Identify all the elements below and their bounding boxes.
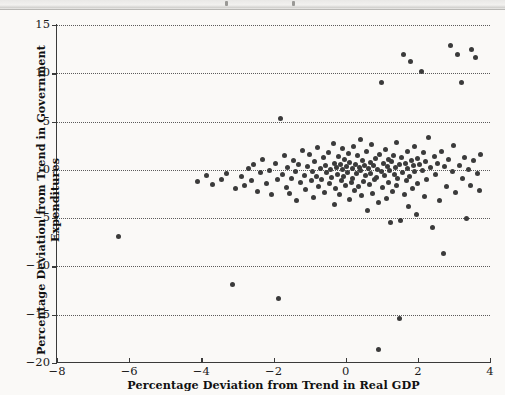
data-point	[275, 177, 280, 182]
data-point	[455, 52, 460, 57]
plot-area	[57, 25, 490, 363]
data-point	[358, 137, 363, 142]
y-tick-mark-0	[52, 170, 56, 171]
data-point	[412, 144, 417, 149]
gridline-y--5	[57, 218, 490, 219]
x-tick-label-3: −2	[259, 366, 289, 377]
data-point	[291, 158, 296, 163]
x-tick-mark-3	[274, 358, 275, 363]
data-point	[389, 159, 394, 164]
data-point	[437, 198, 442, 203]
gridline-y-0	[57, 170, 490, 171]
data-point	[376, 347, 381, 352]
strip-tick-right	[292, 1, 295, 6]
data-point	[414, 212, 419, 217]
data-point	[316, 184, 321, 189]
data-point	[402, 192, 407, 197]
data-point	[367, 182, 372, 187]
data-point	[432, 154, 437, 159]
data-point	[298, 180, 303, 185]
data-point	[397, 316, 402, 321]
data-point	[441, 251, 446, 256]
data-point	[409, 158, 414, 163]
data-point	[382, 173, 387, 178]
x-tick-label-5: 2	[403, 366, 433, 377]
x-tick-mark-5	[418, 358, 419, 363]
data-point	[448, 43, 453, 48]
data-point	[336, 154, 341, 159]
x-tick-mark-1	[129, 358, 130, 363]
data-point	[351, 144, 356, 149]
scatter-plot-figure: Percentage Deviation from Trend in Real …	[0, 0, 505, 395]
data-point	[369, 142, 374, 147]
data-point	[471, 158, 476, 163]
data-point	[341, 174, 346, 179]
y-tick-mark--15	[52, 315, 56, 316]
data-point	[278, 116, 283, 121]
data-point	[350, 176, 355, 181]
data-point	[264, 181, 269, 186]
data-point	[302, 173, 307, 178]
data-point	[408, 59, 413, 64]
data-point	[411, 163, 416, 168]
x-tick-label-4: 0	[331, 366, 361, 377]
data-point	[400, 170, 405, 175]
gridline-y--10	[57, 266, 490, 267]
data-point	[310, 169, 315, 174]
data-point	[451, 143, 456, 148]
data-point	[333, 186, 338, 191]
data-point	[358, 168, 363, 173]
y-tick-mark--10	[52, 266, 56, 267]
data-point	[415, 181, 420, 186]
data-point	[210, 182, 215, 187]
data-point	[420, 168, 425, 173]
data-point	[347, 160, 352, 165]
x-tick-label-2: −4	[186, 366, 216, 377]
y-tick-label--15: −15	[16, 309, 50, 320]
data-point	[384, 196, 389, 201]
data-point	[343, 183, 348, 188]
data-point	[344, 164, 349, 169]
data-point	[239, 174, 244, 179]
x-tick-label-6: 4	[475, 366, 505, 377]
data-point	[376, 200, 381, 205]
data-point	[300, 148, 305, 153]
y-tick-mark-15	[52, 25, 56, 26]
x-tick-mark-6	[490, 358, 491, 363]
data-point	[391, 153, 396, 158]
data-point	[373, 156, 378, 161]
data-point	[230, 282, 235, 287]
data-point	[379, 80, 384, 85]
data-point	[412, 169, 417, 174]
gridline-y-15	[57, 25, 490, 26]
data-point	[457, 163, 462, 168]
data-point	[419, 69, 424, 74]
data-point	[284, 185, 289, 190]
data-point	[428, 165, 433, 170]
data-point	[363, 173, 368, 178]
y-tick-label-10: 10	[16, 67, 50, 78]
data-point	[394, 183, 399, 188]
data-point	[303, 187, 308, 192]
data-point	[337, 192, 342, 197]
data-point	[294, 198, 299, 203]
data-point	[309, 178, 314, 183]
data-point	[355, 153, 360, 158]
data-point	[403, 161, 408, 166]
data-point	[251, 162, 256, 167]
data-point	[468, 183, 473, 188]
data-point	[383, 147, 388, 152]
data-point	[319, 177, 324, 182]
data-point	[365, 208, 370, 213]
data-point	[195, 179, 200, 184]
x-axis-label: Percentage Deviation from Trend in Real …	[57, 378, 490, 392]
data-point	[289, 176, 294, 181]
data-point	[430, 225, 435, 230]
data-point	[397, 162, 402, 167]
data-point	[464, 216, 469, 221]
x-tick-mark-2	[201, 358, 202, 363]
data-point	[450, 169, 455, 174]
data-point	[478, 152, 483, 157]
data-point	[318, 166, 323, 171]
gridline-y--15	[57, 315, 490, 316]
